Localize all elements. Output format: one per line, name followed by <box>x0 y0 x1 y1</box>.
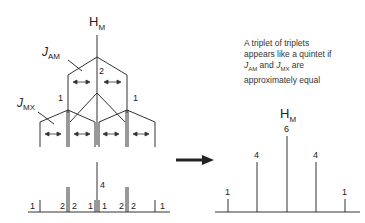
intensity-label: 1 <box>225 187 230 197</box>
j-am-label: JAM <box>42 45 60 61</box>
splitting-diagram <box>0 0 365 223</box>
intensity-label: 1 <box>58 93 63 103</box>
intensity-label: 1 <box>160 201 165 211</box>
hm-label-left: HM <box>89 14 105 32</box>
intensity-label: 2 <box>99 66 104 76</box>
intensity-label: 4 <box>313 150 318 160</box>
intensity-label: 6 <box>284 124 289 134</box>
intensity-label: 1 <box>88 201 93 211</box>
intensity-label: 2 <box>119 201 124 211</box>
j-mx-label: JMX <box>17 96 35 112</box>
intensity-label: 4 <box>100 180 105 190</box>
intensity-label: 1 <box>342 187 347 197</box>
intensity-label: 2 <box>60 201 65 211</box>
intensity-label: 2 <box>72 201 77 211</box>
intensity-label: 1 <box>133 93 138 103</box>
quintet-spectrum <box>215 136 360 212</box>
intensity-label: 1 <box>30 201 35 211</box>
right-arrow-icon <box>176 155 214 165</box>
hm-label-right: HM <box>280 106 296 124</box>
explanation-note: A triplet of triplets appears like a qui… <box>244 38 364 86</box>
intensity-label: 1 <box>102 201 107 211</box>
intensity-label: 4 <box>254 150 259 160</box>
stick-spectrum <box>28 162 170 212</box>
intensity-label: 2 <box>131 201 136 211</box>
